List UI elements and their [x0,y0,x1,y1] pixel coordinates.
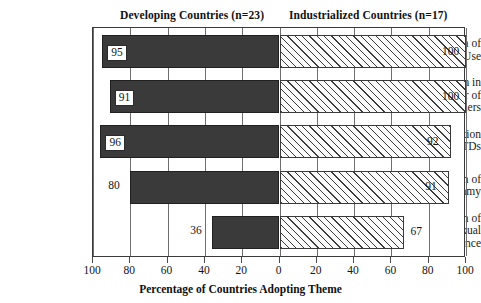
bar-row: 8091 [93,171,464,204]
axis-tick [316,257,317,263]
axis-tick [279,257,280,263]
bar-developing [130,171,279,204]
bar-row: 9692 [93,125,464,158]
bar-value-industrialized: 100 [442,46,459,58]
legend-industrialized-countries: Industrialized Countries (n=17) [289,9,448,21]
bar-developing [100,125,279,158]
axis-tick-label: 80 [124,264,136,276]
bar-industrialized [280,80,467,113]
bar-industrialized [280,35,467,68]
axis-tick-label: 20 [235,264,247,276]
axis-tick [129,257,130,263]
bar-value-developing: 95 [107,45,127,62]
x-axis-title: Percentage of Countries Adopting Theme [0,283,481,295]
bar-row: 95100 [93,35,464,68]
x-axis-ticks [92,257,465,264]
axis-tick [353,257,354,263]
legend-developing-countries: Developing Countries (n=23) [120,9,264,21]
bar-industrialized [280,125,452,158]
bar-chart: Developing Countries (n=23) Industrializ… [0,0,481,303]
axis-tick [167,257,168,263]
x-axis-tick-labels: 10080604020020406080100 [0,264,481,280]
axis-tick-label: 0 [276,264,282,276]
axis-tick-label: 100 [83,264,100,276]
gridline [466,28,467,256]
bar-row: 91100 [93,80,464,113]
axis-tick [204,257,205,263]
bar-value-developing: 36 [190,225,202,237]
axis-tick-label: 20 [310,264,322,276]
bar-value-developing: 80 [108,180,120,192]
bar-value-industrialized: 92 [427,136,439,148]
axis-tick-label: 80 [422,264,434,276]
axis-tick-label: 60 [161,264,173,276]
axis-tick-label: 40 [198,264,210,276]
bar-value-industrialized: 91 [425,181,437,193]
axis-tick [465,257,466,263]
bar-developing [110,80,280,113]
bar-industrialized [280,216,405,249]
bar-row: 3667 [93,216,464,249]
bar-developing [212,216,279,249]
axis-tick [241,257,242,263]
axis-tick-label: 40 [347,264,359,276]
bar-industrialized [280,171,450,204]
bar-value-industrialized: 67 [410,226,422,238]
bar-value-developing: 91 [115,90,135,107]
plot-area: 9510091100969280913667 [92,27,465,257]
axis-tick-label: 100 [456,264,473,276]
axis-tick [428,257,429,263]
axis-tick [92,257,93,263]
axis-tick-label: 60 [385,264,397,276]
bar-developing [102,35,279,68]
bar-value-developing: 96 [105,135,125,152]
axis-tick [390,257,391,263]
bar-value-industrialized: 100 [442,91,459,103]
